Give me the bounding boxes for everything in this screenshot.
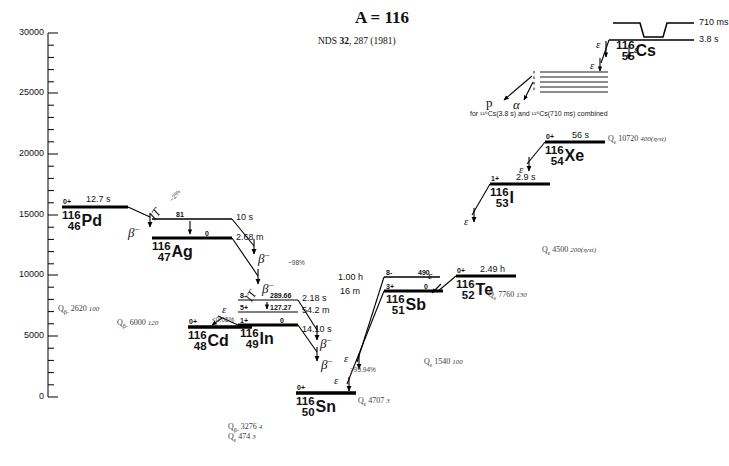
halflife-116ag-ground: 2.68 m: [236, 232, 264, 242]
y-tick-10000: 10000: [4, 269, 44, 279]
q-unc: 130: [516, 291, 527, 299]
q-sub: β-: [123, 323, 128, 329]
qvalue-0: Qβ- 2620 100: [58, 304, 99, 315]
halflife-116cs-upper: 710 ms: [699, 17, 729, 27]
jpi-116in-1plus: 1+: [240, 317, 248, 324]
mass-number: 116: [545, 145, 564, 156]
decay-epsilon-116cs-a: ε: [596, 38, 600, 50]
mass-number: 116: [62, 210, 81, 221]
page-title: A = 116: [355, 8, 409, 28]
halflife-116sb-3plus: 16 m: [340, 286, 360, 296]
branch-116ag-beta: ~98%: [288, 259, 305, 266]
halflife-116cs-lower: 3.8 s: [699, 34, 719, 44]
element-symbol: Cd: [208, 332, 229, 350]
proton-alpha-caption: for ¹¹⁶Cs(3.8 s) and ¹¹⁶Cs(710 ms) combi…: [470, 110, 608, 117]
nuclide-116ag-numbers: 116 47: [152, 241, 171, 262]
halflife-116ag-isomer: 10 s: [236, 212, 253, 222]
element-symbol: Ag: [172, 243, 193, 261]
halflife-116xe: 56 s: [572, 130, 589, 140]
q-sub: β-: [64, 309, 69, 315]
energy-116sb-3plus: 0: [424, 283, 428, 290]
qvalue-8: Qε 10720 400(syst): [608, 134, 666, 145]
halflife-116te: 2.49 h: [480, 264, 505, 274]
halflife-116sb-8minus: 1.00 h: [338, 272, 363, 282]
jpi-116in-5plus: 5+: [240, 304, 248, 311]
nuclide-116ag: 116 47 Ag: [152, 241, 193, 262]
element-symbol: Sn: [316, 398, 336, 416]
y-axis: [48, 33, 58, 397]
jpi-116sb-3plus: 3+: [386, 283, 394, 290]
y-tick-0: 0: [4, 391, 44, 401]
mass-number: 116: [386, 294, 405, 305]
proton-label: p: [486, 95, 493, 111]
qvalue-7: Qε 4500 200(syst): [542, 245, 596, 256]
q-value: 6000: [130, 318, 146, 327]
q-unc: 100: [89, 305, 100, 313]
jpi-116te: 0+: [457, 267, 465, 274]
atomic-number: 52: [456, 290, 475, 301]
y-tick-15000: 15000: [4, 209, 44, 219]
qvalue-3: Qε 474 3: [228, 432, 256, 443]
jpi-116in-8minus: 8-: [240, 292, 246, 299]
decay-epsilon-116cs-b: ε: [590, 59, 594, 71]
q-sub: ε: [494, 295, 497, 301]
decay-beta-116pd: β−: [128, 224, 140, 241]
y-tick-20000: 20000: [4, 148, 44, 158]
q-unc: 3: [252, 433, 256, 441]
q-unc: 3: [386, 397, 390, 405]
element-symbol: I: [510, 189, 514, 207]
nuclide-116in-numbers: 116 49: [240, 328, 259, 349]
nuclide-116pd: 116 46 Pd: [62, 210, 102, 231]
atomic-number: 51: [386, 305, 405, 316]
nuclide-116i-numbers: 116 53: [490, 187, 509, 208]
nuclide-116sb: 116 51 Sb: [386, 294, 426, 315]
nuclide-116in: 116 49 In: [240, 328, 274, 349]
nuclide-116te-numbers: 116 52: [456, 279, 475, 300]
decay-epsilon-116xe: ε: [519, 163, 523, 175]
q-value: 1540: [434, 357, 450, 366]
q-value: 2620: [71, 304, 87, 313]
qvalue-2: Qβ- 3276 4: [228, 422, 262, 433]
mass-number: 116: [188, 330, 207, 341]
jpi-116sb-8minus: 8-: [386, 269, 392, 276]
atomic-number: 46: [62, 221, 81, 232]
branch-116in-beta: >99.94%: [350, 366, 376, 373]
jpi-116xe: 0+: [546, 133, 554, 140]
q-value: 4500: [552, 245, 568, 254]
nuclide-116sn-numbers: 116 50: [296, 396, 315, 417]
y-tick-25000: 25000: [4, 87, 44, 97]
jpi-116cd: 0+: [189, 318, 197, 325]
energy-116in-5plus: 127.27: [270, 304, 291, 311]
atomic-number: 50: [296, 407, 315, 418]
nuclide-116i: 116 53 I: [490, 187, 514, 208]
decay-epsilon-116te: ε: [428, 269, 432, 281]
decay-epsilon-116sb-8minus: ε: [344, 352, 348, 364]
jpi-116pd: 0+: [63, 198, 71, 205]
element-symbol: Xe: [565, 147, 585, 165]
mass-number: 116: [296, 396, 315, 407]
decay-epsilon-116sb-3plus: ε: [334, 374, 338, 386]
energy-116in-1plus: 0: [280, 317, 284, 324]
element-symbol: In: [260, 330, 274, 348]
reference-suffix: , 287 (1981): [349, 36, 396, 46]
atomic-number: 49: [240, 339, 259, 350]
nuclide-116xe: 116 54 Xe: [545, 145, 584, 166]
decay-epsilon-116cs-c: ε: [634, 43, 638, 55]
energy-116ag-isomer: 81: [176, 211, 184, 218]
mass-number: 116: [490, 187, 509, 198]
q-sub: ε: [614, 139, 617, 145]
q-unc: 400(syst): [640, 135, 666, 143]
q-sub: ε: [548, 250, 551, 256]
halflife-116in-1plus: 14.10 s: [302, 324, 332, 334]
mass-number: 116: [456, 279, 475, 290]
element-symbol: Sb: [406, 296, 426, 314]
atomic-number: 53: [490, 198, 509, 209]
q-value: 10720: [618, 134, 638, 143]
y-tick-30000: 30000: [4, 27, 44, 37]
reference-line: NDS 32, 287 (1981): [318, 36, 396, 46]
reference-prefix: NDS: [318, 36, 339, 46]
q-value: 3276: [241, 422, 257, 431]
branch-116in-epsilon: <0.06%: [212, 316, 234, 323]
atomic-number: 48: [188, 341, 207, 352]
halflife-116in-5plus: 54.2 m: [302, 305, 330, 315]
